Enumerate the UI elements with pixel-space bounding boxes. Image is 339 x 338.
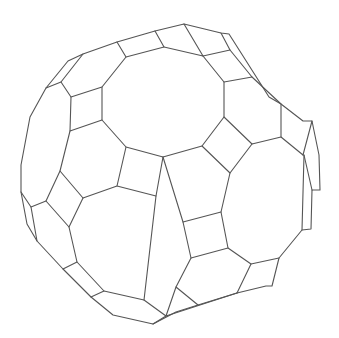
- polyhedron-edge: [60, 147, 126, 198]
- polyhedron-edge: [202, 144, 252, 173]
- polyhedron-edge: [163, 157, 183, 222]
- polyhedron-edge: [237, 264, 251, 293]
- polyhedron-edge: [126, 31, 164, 57]
- polyhedron-drawing: [0, 0, 339, 338]
- polyhedron-edge: [164, 24, 203, 56]
- polyhedron-edge: [21, 24, 320, 324]
- polyhedron-edge: [203, 33, 230, 56]
- polyhedron-edge: [117, 186, 156, 300]
- polyhedron-edge: [46, 198, 83, 227]
- polyhedron-edge: [156, 157, 163, 196]
- polyhedron-edge: [77, 262, 104, 297]
- polyhedron-edge: [21, 131, 70, 207]
- polyhedron-edge: [63, 227, 77, 269]
- polyhedron-edge: [221, 173, 279, 264]
- polyhedron-edge: [166, 287, 198, 316]
- polyhedron-edge: [104, 291, 166, 324]
- polyhedron-edge: [70, 87, 102, 131]
- polyhedron-edge: [224, 117, 281, 144]
- polyhedron-edge: [252, 77, 312, 155]
- polyhedron-edge: [166, 293, 237, 316]
- polyhedron-edge: [46, 54, 83, 88]
- polyhedron-edge: [302, 155, 304, 230]
- polyhedron-figure: [0, 0, 339, 338]
- polyhedron-edge: [102, 82, 224, 157]
- polyhedron-edge: [176, 248, 228, 287]
